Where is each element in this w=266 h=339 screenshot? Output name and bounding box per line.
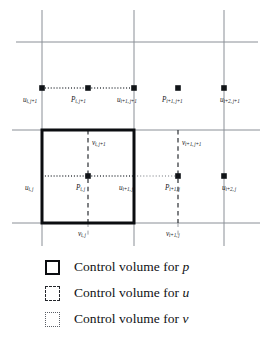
label-u-i-j1: ui, j+1 — [23, 97, 37, 104]
label-v-i-j: vi, j — [78, 231, 86, 238]
legend-prefix-p: Control volume for — [74, 259, 183, 274]
legend-label-v: Control volume for v — [74, 311, 189, 327]
node-marker — [221, 85, 227, 91]
node-marker — [175, 85, 181, 91]
label-u-i1-j: ui+1, j — [119, 185, 133, 192]
figure-page: ui, j+1 Pi, j+1 ui+1, j+1 Pi+1, j+1 ui+2… — [0, 0, 266, 339]
label-p-i1-j1: Pi+1, j+1 — [162, 97, 182, 104]
legend-swatch-dashed-icon — [45, 286, 60, 301]
legend-symbol-v: v — [183, 311, 189, 326]
label-p-i-j1: Pi, j+1 — [71, 97, 86, 104]
label-u-i1-j1: ui+1, j+1 — [117, 97, 137, 104]
label-u-i-j: ui, j — [25, 185, 33, 192]
node-marker — [131, 85, 137, 91]
node-marker — [85, 85, 91, 91]
label-v-i1-j: vi+1, j — [166, 231, 179, 238]
label-u-i2-j1: ui+2, j+1 — [220, 97, 240, 104]
u-control-volume-centerlines — [42, 88, 178, 176]
legend-prefix-u: Control volume for — [74, 285, 183, 300]
legend-item-v: Control volume for v — [0, 306, 266, 332]
legend-symbol-p: p — [183, 259, 190, 274]
label-p-i1-j: Pi+1, j — [165, 185, 180, 192]
legend-item-p: Control volume for p — [0, 254, 266, 280]
label-v-i-j1: vi, j+1 — [92, 140, 105, 147]
legend-swatch-dotted-icon — [45, 312, 60, 327]
legend-prefix-v: Control volume for — [74, 311, 183, 326]
horizontal-gridlines — [12, 42, 260, 223]
label-p-i-j: Pi, j — [76, 185, 85, 192]
legend-swatch-solid-icon — [45, 260, 60, 275]
node-marker — [39, 85, 45, 91]
label-u-i2-j: ui+2, j — [222, 185, 236, 192]
legend-label-u: Control volume for u — [74, 285, 189, 301]
node-marker — [175, 173, 181, 179]
staggered-grid-figure: ui, j+1 Pi, j+1 ui+1, j+1 Pi+1, j+1 ui+2… — [0, 0, 266, 250]
legend-symbol-u: u — [183, 285, 190, 300]
node-marker — [85, 173, 91, 179]
legend-label-p: Control volume for p — [74, 259, 189, 275]
legend-item-u: Control volume for u — [0, 280, 266, 306]
node-marker — [221, 173, 227, 179]
grid-svg — [0, 0, 266, 250]
legend: Control volume for p Control volume for … — [0, 252, 266, 339]
label-v-i1-j1: vi+1, j+1 — [182, 140, 201, 147]
